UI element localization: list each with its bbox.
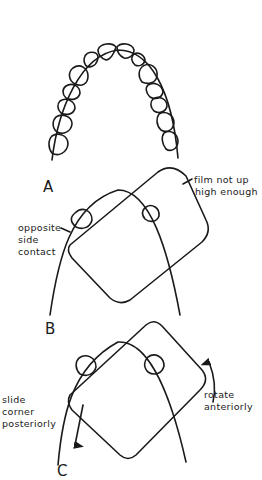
annotation-slide: posteriorly: [2, 418, 56, 429]
tooth-icon: [142, 206, 159, 222]
film-packet-outline: [68, 168, 208, 303]
leader-line: [61, 228, 70, 232]
tooth-icon: [76, 356, 96, 375]
tooth-icon: [49, 134, 68, 154]
annotation-film: high enough: [195, 186, 258, 197]
annotation-slide: corner: [2, 406, 34, 417]
annotation-film: film not up: [194, 174, 249, 185]
panel-label-c: C: [57, 462, 67, 480]
annotation-rotate: rotate: [204, 389, 234, 400]
annotation-slide: slide: [2, 394, 26, 405]
panel-b: film not up high enough opposite side co…: [18, 168, 258, 338]
film-packet-outline: [68, 322, 205, 459]
annotation-opposite: opposite: [18, 222, 61, 233]
annotation-opposite: side: [18, 234, 39, 245]
tooth-icon: [98, 44, 116, 60]
dental-film-placement-diagram: A film not up high enough opposite side …: [0, 0, 262, 480]
panel-c: slide corner posteriorly rotate anterior…: [2, 322, 253, 480]
panel-label-a: A: [43, 178, 54, 196]
tooth-icon: [71, 209, 92, 228]
tooth-icon: [157, 113, 174, 132]
tooth-icon: [151, 97, 167, 112]
tooth-icon: [146, 83, 163, 98]
tooth-icon: [69, 66, 88, 85]
arrow-slide-posteriorly-icon: [75, 405, 83, 445]
panel-label-b: B: [45, 320, 55, 338]
annotation-rotate: anteriorly: [204, 401, 253, 412]
tooth-icon: [53, 115, 72, 133]
annotation-opposite: contact: [18, 246, 56, 257]
arch-curve: [52, 50, 178, 160]
